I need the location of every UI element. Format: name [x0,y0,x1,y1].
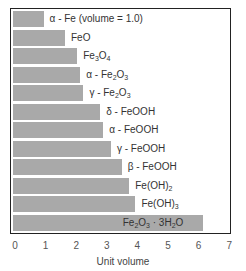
bar [13,141,111,157]
x-tick-label: 5 [165,240,171,251]
x-tick-label: 7 [226,240,232,251]
x-tick-label: 1 [43,240,49,251]
bar [13,159,122,175]
bar [13,85,83,101]
bar-label: α - Fe2O3 [86,67,128,83]
x-tick-label: 2 [73,240,79,251]
bar-label: Fe2O3 · 3H2O [123,215,184,231]
x-tick-label: 3 [104,240,110,251]
bar-label: β - FeOOH [128,159,177,175]
bar-label: α - Fe (volume = 1.0) [50,11,143,27]
bar [13,30,65,46]
bar [13,104,100,120]
bar-label: δ - FeOOH [106,104,155,120]
bar-label: α - FeOOH [109,122,158,138]
bar-label: γ - Fe2O3 [89,85,130,101]
bar [13,196,135,212]
x-tick-label: 6 [196,240,202,251]
bar-label: Fe(OH)2 [135,178,172,194]
bar [13,178,129,194]
x-axis-label: Unit volume [0,256,246,267]
bar-label: γ - FeOOH [117,141,165,157]
bar [13,122,103,138]
bar [13,48,77,64]
bar-label: Fe3O4 [83,48,110,64]
bar [13,11,44,27]
x-tick-label: 0 [12,240,18,251]
bar [13,67,80,83]
bar-label: FeO [71,30,90,46]
x-tick-label: 4 [135,240,141,251]
bar-label: Fe(OH)3 [141,196,178,212]
